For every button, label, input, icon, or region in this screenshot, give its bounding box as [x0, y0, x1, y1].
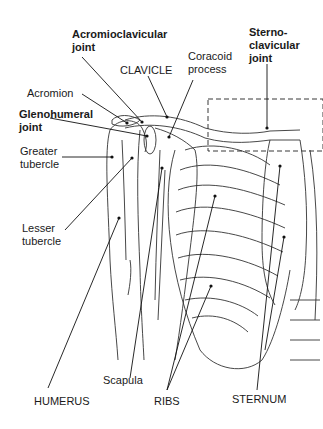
- label-sternoclavicular-joint: Sterno- clavicular joint: [249, 26, 300, 65]
- label-humerus: HUMERUS: [34, 395, 90, 408]
- label-clavicle: CLAVICLE: [120, 64, 172, 77]
- label-acromion: Acromion: [27, 87, 73, 100]
- label-lesser-tubercle: Lesser tubercle: [22, 222, 61, 248]
- label-greater-tubercle: Greater tubercle: [20, 145, 59, 171]
- label-scapula: Scapula: [103, 374, 143, 387]
- sternoclavicular-region-box: [208, 99, 323, 151]
- label-glenohumeral-joint: Glenohumeral joint: [19, 108, 93, 134]
- label-coracoid-process: Coracoid process: [188, 50, 232, 76]
- label-sternum: STERNUM: [232, 393, 286, 406]
- label-ribs: RIBS: [154, 395, 180, 408]
- shoulder-anatomy-diagram: Acromioclavicular joint CLAVICLE Coracoi…: [0, 0, 323, 429]
- label-acromioclavicular-joint: Acromioclavicular joint: [72, 28, 167, 54]
